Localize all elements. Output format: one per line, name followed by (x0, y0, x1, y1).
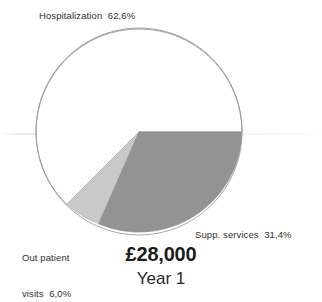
slice-label-hospitalization: Hospitalization 62,6% (39, 10, 135, 22)
slice-label-outpatient-line2: visits 6,0% (22, 288, 71, 300)
slice-label-supp-services: Supp. services 31,4% (195, 229, 292, 241)
pie-chart-figure: Hospitalization 62,6% Out patient visits… (0, 0, 322, 302)
slice-label-outpatient-visits: Out patient visits 6,0% (22, 228, 71, 302)
pie-graphic (36, 29, 242, 235)
slice-label-outpatient-line1: Out patient (22, 252, 71, 264)
